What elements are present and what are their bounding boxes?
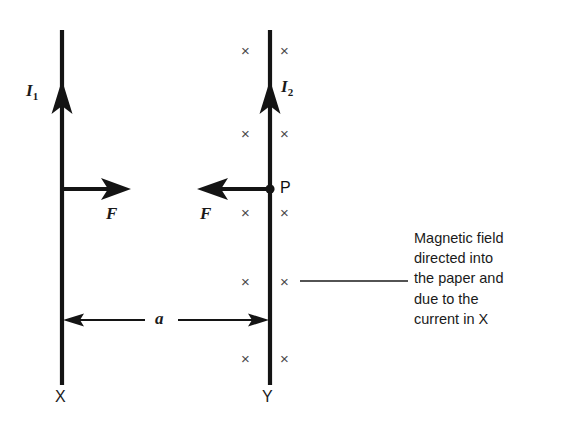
field-symbol-into-page: × <box>280 205 289 220</box>
field-symbol-into-page: × <box>241 43 250 58</box>
current-label-i1-symbol: I <box>26 81 33 100</box>
annotation-line: current in X <box>414 309 564 329</box>
annotation-line: due to the <box>414 289 564 309</box>
physics-diagram-canvas: × × × × × × × × × × I1 I2 F F P a X Y Ma… <box>0 0 565 428</box>
distance-dimension-arrow <box>63 314 269 327</box>
current-label-i1: I1 <box>26 82 38 102</box>
field-symbol-into-page: × <box>241 126 250 141</box>
force-label-on-y: F <box>200 205 211 222</box>
current-label-i1-subscript: 1 <box>33 90 39 102</box>
distance-label-a: a <box>155 310 164 327</box>
field-symbol-into-page: × <box>241 274 250 289</box>
force-on-x-arrow <box>62 178 131 200</box>
field-symbol-into-page: × <box>280 274 289 289</box>
wire-x-bottom-label: X <box>55 389 66 405</box>
current-label-i2-subscript: 2 <box>288 86 294 98</box>
wire-x-group <box>52 30 73 385</box>
wire-y-group <box>260 30 281 385</box>
field-symbol-into-page: × <box>241 351 250 366</box>
current-label-i2: I2 <box>281 78 293 98</box>
point-p-dot <box>265 184 274 193</box>
force-on-y-arrow <box>197 178 270 200</box>
force-label-on-x: F <box>106 205 117 222</box>
wire-y-bottom-label: Y <box>262 389 273 405</box>
annotation-line: directed into <box>414 248 564 268</box>
current-label-i2-symbol: I <box>281 77 288 96</box>
point-p-label: P <box>280 180 291 196</box>
annotation-line: Magnetic field <box>414 228 564 248</box>
annotation-text-block: Magnetic field directed into the paper a… <box>414 228 564 329</box>
annotation-line: the paper and <box>414 268 564 288</box>
field-symbol-into-page: × <box>280 126 289 141</box>
field-symbol-into-page: × <box>280 43 289 58</box>
field-symbol-into-page: × <box>280 351 289 366</box>
field-symbol-into-page: × <box>241 205 250 220</box>
